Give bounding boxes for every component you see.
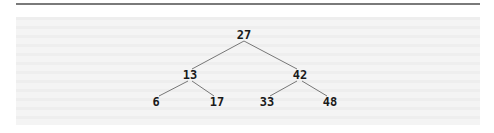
tree-node-root: 27: [237, 29, 251, 41]
edge-42-33: [270, 81, 297, 96]
edge-13-17: [192, 81, 214, 96]
tree-node: 42: [293, 69, 307, 81]
edge-13-6: [159, 81, 188, 96]
tree-node-leaf: 6: [152, 96, 159, 108]
tree-node-leaf: 17: [210, 96, 224, 108]
tree-edges: [0, 0, 494, 133]
edge-42-48: [302, 81, 327, 96]
edge-27-13: [192, 41, 244, 69]
tree-node-leaf: 48: [323, 96, 337, 108]
tree-node: 13: [183, 69, 197, 81]
tree-node-leaf: 33: [260, 96, 274, 108]
edge-27-42: [244, 41, 297, 69]
